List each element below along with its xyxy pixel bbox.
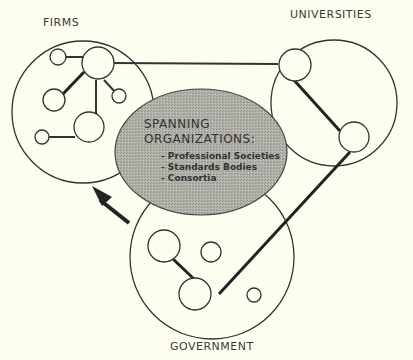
government-node xyxy=(201,242,221,262)
universities-label: UNIVERSITIES xyxy=(290,8,372,21)
firms-label: FIRMS xyxy=(43,16,79,29)
spanning-item: - Professional Societies xyxy=(161,151,280,161)
edge xyxy=(173,259,195,280)
firm-node xyxy=(82,47,114,79)
edge xyxy=(112,63,278,64)
government-node xyxy=(148,230,180,262)
spanning-item: - Consortia xyxy=(161,173,217,183)
spanning-title-line1: SPANNING xyxy=(144,117,210,131)
government-node xyxy=(247,288,261,302)
government-label: GOVERNMENT xyxy=(170,340,254,353)
university-node xyxy=(339,122,369,152)
firm-node xyxy=(112,89,126,103)
university-node xyxy=(279,49,311,81)
edge xyxy=(293,79,340,131)
arrow-icon xyxy=(92,186,129,223)
firm-node xyxy=(35,130,49,144)
spanning-item: - Standards Bodies xyxy=(161,162,257,172)
firm-node xyxy=(43,89,65,111)
diagram-canvas: FIRMS UNIVERSITIES GOVERNMENT SPANNING O… xyxy=(0,0,413,360)
firm-node xyxy=(50,49,66,65)
firm-node xyxy=(74,112,104,142)
spanning-title-line2: ORGANIZATIONS: xyxy=(144,132,255,146)
government-node xyxy=(179,278,211,310)
edge xyxy=(62,72,84,95)
